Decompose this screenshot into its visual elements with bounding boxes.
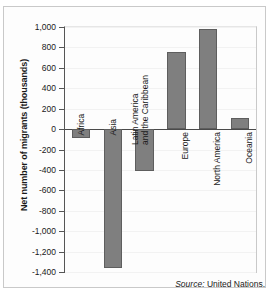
gridline [65, 47, 256, 48]
zero-baseline [65, 129, 256, 130]
gridline [65, 109, 256, 110]
gridline [65, 190, 256, 191]
source-prefix: Source: [175, 279, 204, 289]
y-axis-tick-label: -600 [39, 185, 56, 195]
y-axis-tick: -400 [59, 170, 65, 171]
y-axis-tick-label: 200 [42, 104, 56, 114]
y-axis-tick-label: 0 [51, 124, 56, 134]
y-axis-tick: 200 [59, 109, 65, 110]
gridline [65, 272, 256, 273]
y-axis-tick-label: -800 [39, 206, 56, 216]
bar [199, 29, 217, 130]
gridline [65, 211, 256, 212]
category-label: Oceania [245, 132, 255, 164]
source-note: Source: United Nations. [175, 279, 265, 289]
y-axis-tick-label: -1,000 [32, 226, 56, 236]
y-axis-title: Net number of migrants (thousands) [19, 55, 29, 215]
source-text: United Nations. [207, 279, 265, 289]
gridline [65, 150, 256, 151]
bar [231, 118, 249, 129]
y-axis-tick: -1,200 [59, 252, 65, 253]
category-label: Latin Americaand the Caribbean [131, 75, 150, 145]
gridline [65, 27, 256, 28]
y-axis-tick: 400 [59, 88, 65, 89]
y-axis-tick-label: 800 [42, 42, 56, 52]
bar [104, 129, 122, 268]
y-axis-tick-label: -1,400 [32, 267, 56, 277]
y-axis-tick-label: -400 [39, 165, 56, 175]
bar [167, 52, 185, 129]
y-axis-tick: -1,000 [59, 231, 65, 232]
y-axis-tick: -800 [59, 211, 65, 212]
y-axis-tick-label: 1,000 [35, 22, 56, 32]
y-axis-tick-label: 600 [42, 63, 56, 73]
y-axis-tick: -200 [59, 150, 65, 151]
category-label: Africa [76, 114, 86, 136]
gridline [65, 170, 256, 171]
y-axis-tick-label: -1,200 [32, 247, 56, 257]
y-axis-tick-label: -200 [39, 145, 56, 155]
y-axis-tick-label: 400 [42, 83, 56, 93]
category-label: Asia [108, 119, 118, 136]
gridline [65, 68, 256, 69]
gridline [65, 88, 256, 89]
y-axis-tick: 800 [59, 47, 65, 48]
y-axis-tick: 600 [59, 68, 65, 69]
y-axis-tick: -600 [59, 190, 65, 191]
category-label: Europe [181, 132, 191, 159]
gridline [65, 231, 256, 232]
y-axis-tick: -1,400 [59, 272, 65, 273]
migration-bar-chart-figure: Net number of migrants (thousands) 1,000… [0, 0, 271, 295]
gridline [65, 252, 256, 253]
y-axis-tick: 1,000 [59, 27, 65, 28]
category-label: North America [213, 132, 223, 186]
plot-area: 1,0008006004002000-200-400-600-800-1,000… [64, 26, 257, 273]
